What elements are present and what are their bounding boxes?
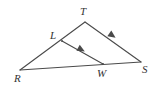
vertex-label-S: S — [142, 64, 148, 75]
transversal-segment — [62, 41, 103, 64]
segment-TS — [85, 22, 141, 62]
geometry-canvas — [0, 0, 158, 90]
segment-RS — [20, 62, 141, 70]
segment-LW — [62, 41, 103, 64]
vertex-label-T: T — [80, 6, 86, 17]
vertex-dot-L — [61, 40, 63, 42]
vertex-dot-W — [102, 63, 104, 65]
vertex-label-R: R — [14, 73, 21, 84]
geometry-figure: T L R W S — [0, 0, 158, 90]
parallel-mark-lw-arrow-icon — [76, 45, 86, 55]
vertex-label-L: L — [50, 30, 56, 41]
vertex-label-W: W — [97, 68, 106, 79]
